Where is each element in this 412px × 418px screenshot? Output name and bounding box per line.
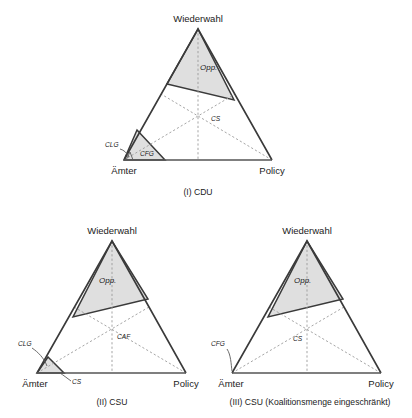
vertex-label-top-cdu: Wiederwahl — [173, 13, 223, 24]
panel-csu: Wiederwahl Ämter Policy Opp. CLG CS CAF … — [18, 225, 199, 407]
region-label-cfg-cdu: CFG — [140, 150, 154, 157]
figure-container: Wiederwahl Ämter Policy Opp. CFG CLG CS … — [0, 0, 412, 418]
vertex-label-right-csu-restricted: Policy — [368, 378, 394, 389]
vertex-label-left-csu: Ämter — [22, 378, 47, 389]
vertex-label-left-cdu: Ämter — [111, 165, 136, 176]
caption-cdu: (I) CDU — [183, 187, 212, 197]
panel-cdu: Wiederwahl Ämter Policy Opp. CFG CLG CS … — [105, 13, 285, 197]
panel-csu-restricted: Wiederwahl Ämter Policy Opp. CFG CS (III… — [211, 225, 394, 407]
region-label-opp-cdu: Opp. — [200, 63, 217, 72]
vertex-label-right-csu: Policy — [173, 378, 199, 389]
region-label-opp-csu: Opp. — [99, 276, 116, 285]
annotation-label-clg-csu: CLG — [18, 340, 32, 347]
caption-csu-restricted: (III) CSU (Koalitionsmenge eingeschränkt… — [230, 397, 391, 407]
region-label-opp-csu-restricted: Opp. — [294, 276, 311, 285]
vertex-label-left-csu-restricted: Ämter — [218, 378, 243, 389]
annotation-label-cs-csu-restricted: CS — [293, 335, 303, 342]
median-left-csu-restricted — [232, 307, 344, 373]
median-left-csu — [37, 307, 149, 373]
median-right-csu — [74, 307, 186, 373]
vertex-label-top-csu-restricted: Wiederwahl — [282, 225, 332, 236]
annotation-label-cs-cdu: CS — [211, 115, 221, 122]
ternary-diagram-figure: Wiederwahl Ämter Policy Opp. CFG CLG CS … — [0, 0, 412, 418]
caption-csu: (II) CSU — [96, 397, 127, 407]
median-right-cdu — [161, 94, 272, 160]
annotation-label-cfg-csu-restricted: CFG — [211, 340, 225, 347]
cs-leader-csu — [60, 373, 71, 381]
vertex-label-top-csu: Wiederwahl — [87, 225, 137, 236]
annotation-label-cs-csu: CS — [72, 378, 82, 385]
vertex-label-right-cdu: Policy — [259, 165, 285, 176]
median-right-csu-restricted — [269, 307, 381, 373]
annotation-label-clg-cdu: CLG — [105, 141, 119, 148]
cfg-leader-csu-restricted — [227, 349, 232, 371]
annotation-label-caf-csu: CAF — [117, 333, 131, 340]
